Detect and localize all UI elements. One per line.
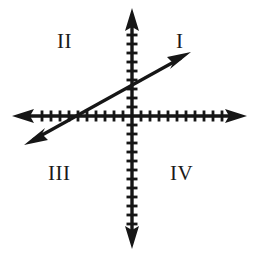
y-axis (125, 8, 139, 249)
plotted-line (24, 52, 191, 145)
plotted-line-lower-left-arrow-icon (24, 128, 48, 145)
quadrant-label-four: IV (170, 163, 193, 184)
x-axis (12, 109, 247, 123)
coordinate-plane-svg (0, 0, 259, 257)
quadrant-label-two: II (57, 31, 72, 52)
quadrant-label-three: III (48, 163, 70, 184)
plotted-line-upper-right-arrow-icon (167, 52, 191, 69)
plotted-line-segment (33, 58, 181, 140)
quadrant-label-one: I (176, 31, 184, 52)
coordinate-plane-figure: I II III IV (0, 0, 259, 257)
